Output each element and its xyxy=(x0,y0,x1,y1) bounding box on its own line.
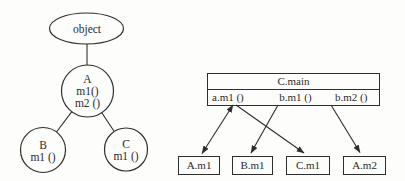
class-c-node-label: C m1 () xyxy=(113,138,138,162)
cmain-table-header: C.main xyxy=(208,74,379,90)
arrow-bm2-call-to-Am2 xyxy=(331,105,360,153)
figure-canvas: object A m1() m2 () B m1 () C m1 () C.ma… xyxy=(0,0,405,181)
method-box-Am1: A.m1 xyxy=(178,156,220,175)
class-a-method-1: m1() xyxy=(75,85,100,97)
object-node-label: object xyxy=(73,23,101,35)
class-c-name: C xyxy=(113,138,138,150)
class-a-name: A xyxy=(75,73,100,85)
class-a-node-label: A m1() m2 () xyxy=(75,73,100,109)
method-box-Cm1: C.m1 xyxy=(286,156,330,175)
object-label: object xyxy=(73,23,101,35)
method-box-Am2: A.m2 xyxy=(343,156,386,175)
class-b-name: B xyxy=(30,139,55,151)
class-b-node-label: B m1 () xyxy=(30,139,55,163)
class-a-method-2: m2 () xyxy=(75,97,100,109)
arrow-am1-call-to-Am1 xyxy=(202,105,233,154)
cmain-table: C.main a.m1 () b.m1 () b.m2 () xyxy=(207,73,380,106)
call-b-m2: b.m2 () xyxy=(323,90,379,105)
call-b-m1: b.m1 () xyxy=(268,90,324,105)
class-b-method-1: m1 () xyxy=(30,151,55,163)
cmain-table-calls-row: a.m1 () b.m1 () b.m2 () xyxy=(208,90,379,105)
arrow-bm1-call-to-Bm1 xyxy=(251,105,278,153)
edge-a-to-c xyxy=(102,113,114,132)
class-c-method-1: m1 () xyxy=(113,150,138,162)
arrow-am1-call-to-Cm1 xyxy=(236,105,304,153)
edge-a-to-b xyxy=(57,112,72,132)
call-a-m1: a.m1 () xyxy=(208,90,268,105)
method-box-Bm1: B.m1 xyxy=(232,156,273,175)
